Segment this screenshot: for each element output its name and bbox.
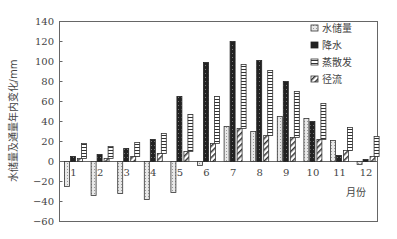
bar-storage [357,162,362,165]
x-tick-label: 9 [283,167,289,178]
bar-evap [135,143,140,157]
bar-evap [241,65,246,129]
x-tick-label: 6 [203,167,209,178]
y-tick-label: −60 [33,216,54,227]
bar-storage [65,162,70,187]
bar-runoff [264,136,269,162]
legend-label-storage: 水储量 [322,22,352,34]
bar-storage [91,162,96,196]
legend-label-runoff: 径流 [322,73,342,85]
bar-runoff [211,144,216,162]
x-tick-label: 2 [97,167,103,178]
y-tick-label: 100 [35,56,54,67]
legend: 水储量 降水 蒸散发 径流 [311,22,352,85]
bar-runoff [290,138,295,162]
legend-storage-swatch [311,25,318,31]
bar-precip [177,97,182,162]
x-axis-ticks: 123456789101112 [70,167,372,178]
legend-runoff-swatch [311,76,318,82]
y-tick-label: 140 [35,16,54,27]
bar-storage [118,162,123,194]
y-tick-label: 20 [41,136,54,147]
x-axis-title: 月份 [346,187,366,198]
bar-evap [321,104,326,140]
y-tick-label: 0 [48,156,54,167]
legend-label-precip: 降水 [322,39,342,51]
y-tick-label: 40 [41,116,54,127]
x-tick-label: 5 [177,167,183,178]
x-tick-label: 8 [257,167,263,178]
bar-evap [215,97,220,144]
bar-precip [97,155,102,162]
x-tick-label: 1 [70,167,76,178]
y-axis-ticks: 140120100806040200−20−40−60 [33,16,63,227]
y-tick-label: 60 [41,96,54,107]
bar-runoff [104,159,109,162]
legend-label-evap: 蒸散发 [322,56,352,68]
bar-precip [310,122,315,162]
bar-precip [71,157,76,162]
bar-evap [188,115,193,152]
bar-runoff [317,140,322,162]
bar-evap [161,134,166,154]
bar-storage [331,141,336,162]
bar-precip [124,149,129,162]
bar-storage [304,119,309,162]
bar-runoff [78,159,83,162]
bar-evap [82,144,87,159]
bar-evap [294,92,299,138]
bar-precip [230,42,235,162]
bar-storage [277,117,282,162]
bar-evap [268,71,273,136]
x-tick-label: 10 [307,167,320,178]
bar-storage [144,162,149,200]
x-tick-label: 11 [333,167,346,178]
legend-evap-swatch [311,59,318,65]
bar-runoff [157,154,162,162]
bar-runoff [184,152,189,162]
bar-storage [198,162,203,166]
x-tick-label: 4 [150,167,156,178]
bar-runoff [344,151,349,162]
bar-storage [251,132,256,162]
bar-storage [171,162,176,193]
bar-precip [257,61,262,162]
bar-precip [204,63,209,162]
bar-precip [337,156,342,162]
x-tick-label: 12 [360,167,373,178]
bar-precip [283,82,288,162]
x-tick-label: 3 [124,167,130,178]
bar-runoff [131,157,136,162]
y-tick-label: 120 [35,36,54,47]
bar-runoff [237,129,242,162]
x-tick-label: 7 [230,167,236,178]
bar-storage [224,127,229,162]
y-axis-title: 水储量及通量年内变化/mm [7,60,19,183]
legend-precip-swatch [311,42,318,48]
bar-evap [374,137,379,157]
bar-evap [348,128,353,151]
chart: 140120100806040200−20−40−60 123456789101… [0,0,397,239]
y-tick-label: −40 [33,196,54,207]
bar-precip [363,160,368,162]
bar-precip [150,140,155,162]
bar-evap [108,147,113,159]
y-tick-label: 80 [41,76,54,87]
y-tick-label: −20 [33,176,54,187]
bar-runoff [370,157,375,162]
